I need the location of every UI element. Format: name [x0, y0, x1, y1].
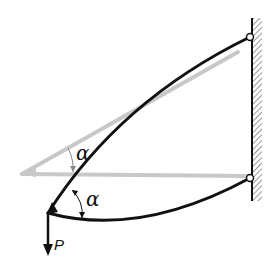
- upper-member-undeformed: [22, 52, 238, 174]
- arrowhead-lower-bottom-icon: [79, 212, 85, 218]
- load-label: P: [54, 236, 64, 253]
- arrowhead-upper-icon: [70, 166, 76, 172]
- rigid-joint: [47, 202, 58, 214]
- arrowhead-lower-top-icon: [72, 190, 78, 196]
- arrow-down-icon: [43, 244, 53, 256]
- angle-indicator-lower: α: [72, 187, 100, 218]
- load-arrow: P: [43, 213, 64, 256]
- pin-support-top: [247, 34, 254, 41]
- lower-member-undeformed: [22, 174, 250, 176]
- wall: [252, 18, 262, 201]
- undeformed-structure: [20, 52, 250, 177]
- angle-label-lower: α: [86, 187, 100, 211]
- wall-hatching: [252, 18, 262, 201]
- pin-support-bottom: [247, 175, 254, 182]
- truss-deflection-diagram: α α P: [0, 0, 278, 267]
